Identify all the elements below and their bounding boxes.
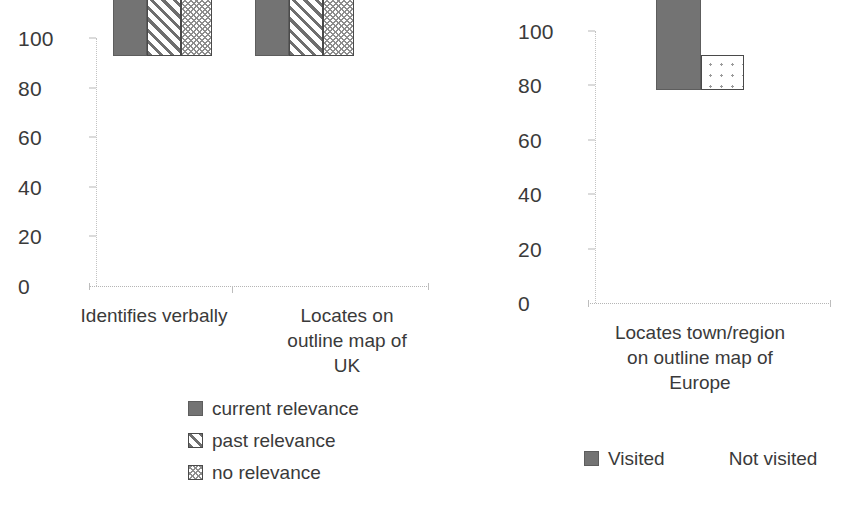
left-x-axis-line <box>89 286 429 287</box>
right-chart-legend: Visited Not visited <box>584 449 857 468</box>
legend-item-not-visited: Not visited <box>705 449 818 468</box>
legend-item-current-relevance: current relevance <box>188 399 359 418</box>
left-x-axis-tick-mid <box>232 286 233 293</box>
bar-current-relevance-locates-uk <box>255 0 289 56</box>
legend-swatch-visited-icon <box>584 451 599 466</box>
legend-label-current-relevance: current relevance <box>212 399 359 418</box>
legend-item-visited: Visited <box>584 449 665 468</box>
left-bar-group-locates-uk <box>0 0 470 286</box>
left-category-label-locates-uk: Locates on outline map of UK <box>252 303 442 378</box>
bar-not-visited-locates-europe <box>701 55 744 90</box>
right-category-label-locates-europe: Locates town/region on outline map of Eu… <box>590 320 810 395</box>
legend-label-past-relevance: past relevance <box>212 431 336 450</box>
bar-no-relevance-locates-uk <box>323 0 354 56</box>
chart-right-bar: 100 80 60 40 20 0 Locates town/region on… <box>470 0 866 516</box>
legend-swatch-diagonal-icon <box>188 433 203 448</box>
bar-visited-locates-europe <box>656 0 701 90</box>
legend-swatch-solid-icon <box>188 401 203 416</box>
left-chart-legend: current relevance past relevance no rele… <box>188 399 359 495</box>
legend-item-past-relevance: past relevance <box>188 431 359 450</box>
bar-past-relevance-locates-uk <box>289 0 323 56</box>
right-x-axis-line <box>588 303 831 304</box>
legend-swatch-not-visited-icon <box>705 451 720 466</box>
legend-swatch-crosshatch-icon <box>188 465 203 480</box>
legend-item-no-relevance: no relevance <box>188 463 359 482</box>
left-category-label-identifies-verbally: Identifies verbally <box>50 303 258 328</box>
right-bar-group-locates-europe <box>470 0 866 303</box>
chart-left-grouped-bar: 100 80 60 40 20 0 Identifies verbally Lo… <box>0 0 470 516</box>
legend-label-no-relevance: no relevance <box>212 463 321 482</box>
legend-label-visited: Visited <box>608 449 665 468</box>
legend-label-not-visited: Not visited <box>729 449 818 468</box>
